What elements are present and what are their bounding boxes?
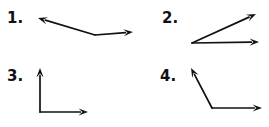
obtuse-angle-ray-up-left-shaft: [195, 75, 212, 108]
figure-1-obtuse-angle-shallow: [38, 17, 133, 36]
right-angle-ray-up-arrowhead-icon: [36, 68, 43, 78]
obtuse-angle-shallow-ray-up-left-shaft: [45, 20, 95, 35]
obtuse-angle-ray-up-left-arrowhead-icon: [191, 68, 199, 78]
figure-label-1: 1.: [7, 11, 23, 26]
figure-label-3: 3.: [7, 69, 23, 84]
figure-4-obtuse-angle: [191, 68, 262, 112]
figure-label-4: 4.: [160, 69, 176, 84]
figure-2-acute-angle: [192, 14, 259, 46]
figure-3-right-angle: [36, 68, 88, 116]
right-angle-ray-right-arrowhead-icon: [79, 108, 89, 115]
acute-angle-ray-right-arrowhead-icon: [249, 39, 259, 46]
angle-figures-svg: [0, 0, 269, 127]
acute-angle-ray-up-right-arrowhead-icon: [246, 14, 256, 21]
worksheet-canvas: 1. 2. 3. 4.: [0, 0, 269, 127]
acute-angle-ray-up-right-shaft: [192, 17, 249, 43]
obtuse-angle-shallow-ray-right-shaft: [95, 33, 125, 35]
acute-angle-ray-right-shaft: [192, 42, 251, 43]
obtuse-angle-shallow-ray-right-arrowhead-icon: [123, 29, 133, 36]
obtuse-angle-shallow-ray-up-left-arrowhead-icon: [38, 17, 48, 24]
obtuse-angle-ray-right-arrowhead-icon: [253, 104, 263, 111]
figure-label-2: 2.: [162, 11, 178, 26]
